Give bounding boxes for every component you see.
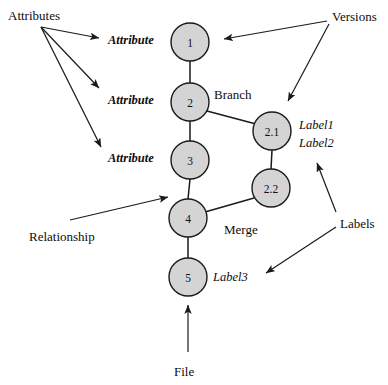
edge-3-4: [188, 179, 190, 199]
arrow-attributes-3: [41, 27, 101, 147]
diagram-graphics: 1 2 3 4 5 2.1: [0, 0, 388, 385]
edge-2.1-2.2: [271, 150, 272, 169]
attribute-label-2: Attribute: [108, 94, 154, 107]
node-1-label: 1: [187, 37, 193, 49]
node-3-label: 3: [187, 155, 193, 167]
annotation-branch: Branch: [214, 88, 252, 101]
node-1[interactable]: 1: [171, 23, 209, 61]
node-4[interactable]: 4: [169, 199, 207, 237]
edge-2-2.1: [207, 111, 256, 124]
node-2-2-label: 2.2: [264, 183, 279, 195]
arrow-relationship-node4: [70, 197, 168, 220]
node-2[interactable]: 2: [171, 83, 209, 121]
version-label-1: Label1: [299, 119, 334, 132]
diagram-canvas: 1 2 3 4 5 2.1: [0, 0, 388, 385]
node-2-2[interactable]: 2.2: [252, 169, 290, 207]
node-5[interactable]: 5: [169, 258, 207, 296]
annotation-attributes: Attributes: [8, 9, 60, 22]
arrow-labels-upper: [317, 163, 336, 212]
annotation-labels: Labels: [340, 217, 375, 230]
version-label-2: Label2: [299, 137, 334, 150]
node-4-label: 4: [185, 213, 191, 225]
edge-2.2-4: [205, 198, 254, 212]
attribute-label-3: Attribute: [108, 152, 154, 165]
arrow-labels-lower: [266, 227, 336, 273]
annotation-file: File: [174, 365, 194, 378]
node-5-label: 5: [185, 272, 191, 284]
node-2-1[interactable]: 2.1: [253, 112, 291, 150]
annotation-versions: Versions: [332, 10, 377, 23]
annotation-merge: Merge: [224, 223, 258, 236]
annotation-relationship: Relationship: [29, 230, 95, 243]
node-3[interactable]: 3: [171, 141, 209, 179]
node-2-label: 2: [187, 97, 193, 109]
attribute-label-1: Attribute: [108, 34, 154, 47]
arrow-versions-branch: [288, 24, 329, 101]
node-2-1-label: 2.1: [265, 126, 280, 138]
version-label-3: Label3: [213, 271, 248, 284]
arrow-versions-node1: [224, 21, 327, 39]
